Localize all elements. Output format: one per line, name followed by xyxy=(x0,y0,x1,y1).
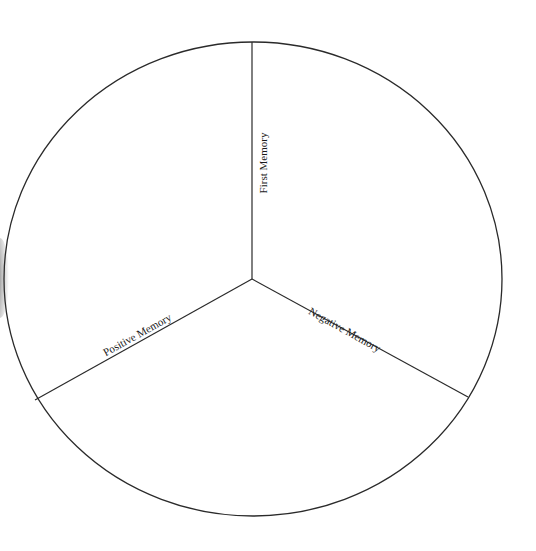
section-label-first-memory: First Memory xyxy=(257,132,269,193)
divider-line-left xyxy=(35,279,252,400)
memory-circle-diagram: First Memory Positive Memory Negative Me… xyxy=(0,0,536,551)
section-label-negative-memory: Negative Memory xyxy=(307,305,384,355)
section-label-positive-memory: Positive Memory xyxy=(101,311,174,359)
